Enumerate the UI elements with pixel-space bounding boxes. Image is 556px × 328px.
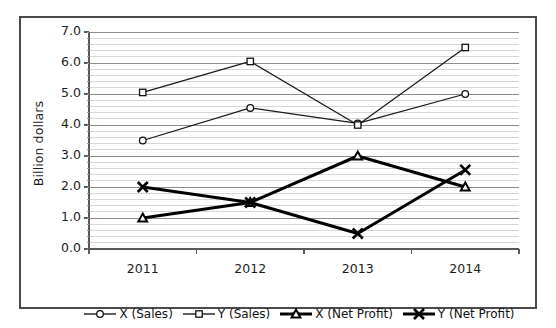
data-point-square-open	[196, 311, 202, 317]
x-tick-label: 2011	[103, 263, 183, 276]
series-1	[143, 48, 466, 126]
legend-marker-x-cross-icon	[402, 307, 436, 321]
legend-item-0[interactable]: X (Sales)	[83, 307, 172, 321]
chart-frame: Billion dollars 0.01.02.03.04.05.06.07.0…	[19, 16, 537, 309]
x-tick-label: 2013	[318, 263, 398, 276]
data-point-circle-open	[247, 105, 254, 112]
y-tick-label: 2.0	[47, 180, 81, 193]
series-markers-0	[139, 91, 468, 144]
data-point-square-open	[462, 44, 468, 50]
data-point-circle-open	[97, 311, 104, 318]
chart-legend: X (Sales)Y (Sales)X (Net Profit)Y (Net P…	[21, 307, 556, 321]
data-point-circle-open	[139, 137, 146, 144]
data-point-triangle-open	[461, 183, 470, 191]
y-tick-label: 4.0	[47, 118, 81, 131]
y-tick-label: 1.0	[47, 211, 81, 224]
data-point-square-open	[140, 89, 146, 95]
y-tick-label: 5.0	[47, 87, 81, 100]
x-tick-label: 2014	[425, 263, 505, 276]
chart-root: Billion dollars 0.01.02.03.04.05.06.07.0…	[0, 0, 556, 328]
data-point-square-open	[355, 122, 361, 128]
y-tick-label: 7.0	[47, 25, 81, 38]
legend-item-2[interactable]: X (Net Profit)	[279, 307, 393, 321]
data-point-x-cross	[460, 165, 470, 175]
y-tick-label: 0.0	[47, 242, 81, 255]
legend-marker-circle-open-icon	[83, 307, 117, 321]
legend-item-1[interactable]: Y (Sales)	[182, 307, 270, 321]
legend-marker-triangle-open-icon	[279, 307, 313, 321]
legend-item-label: X (Sales)	[119, 307, 172, 321]
x-tick-label: 2012	[210, 263, 290, 276]
legend-marker-square-open-icon	[182, 307, 216, 321]
y-tick-label: 3.0	[47, 149, 81, 162]
legend-item-label: Y (Sales)	[218, 307, 270, 321]
data-point-square-open	[247, 58, 253, 64]
data-point-triangle-open	[292, 310, 301, 318]
series-markers-3	[138, 165, 471, 239]
data-point-triangle-open	[353, 152, 362, 160]
legend-item-3[interactable]: Y (Net Profit)	[402, 307, 515, 321]
legend-item-label: Y (Net Profit)	[438, 307, 515, 321]
y-axis-title: Billion dollars	[31, 64, 46, 224]
data-point-triangle-open	[138, 214, 147, 222]
legend-item-label: X (Net Profit)	[315, 307, 393, 321]
data-point-circle-open	[462, 91, 469, 98]
y-tick-label: 6.0	[47, 56, 81, 69]
series-0	[143, 94, 466, 141]
